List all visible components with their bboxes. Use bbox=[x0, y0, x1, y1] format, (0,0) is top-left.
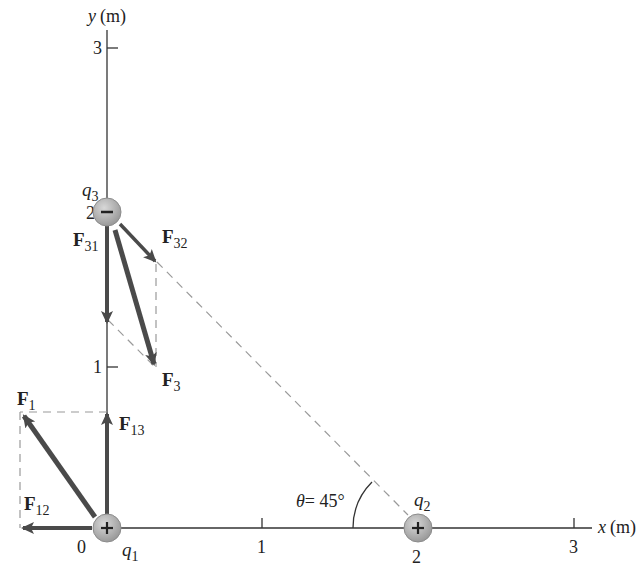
x-tick-label-3: 3 bbox=[569, 537, 578, 557]
y-tick-label-3: 3 bbox=[93, 38, 102, 58]
label-q1: q1 bbox=[122, 539, 139, 564]
x-tick-label-0: 0 bbox=[77, 537, 86, 557]
x-axis-label: x(m) bbox=[597, 517, 636, 538]
label-q3: q3 bbox=[82, 179, 99, 204]
force-vector-diagram: y(m) x(m) 0 1 2 3 1 2 3 θ= 45° bbox=[0, 0, 641, 571]
arrow-f32 bbox=[120, 224, 155, 261]
force-arrows bbox=[23, 224, 155, 528]
label-f31: F31 bbox=[73, 229, 99, 254]
charge-q1 bbox=[93, 514, 121, 542]
x-tick-label-1: 1 bbox=[257, 537, 266, 557]
angle-arc bbox=[353, 482, 372, 528]
y-tick-label-1: 1 bbox=[93, 357, 102, 377]
label-f13: F13 bbox=[119, 413, 145, 438]
charge-q2 bbox=[404, 514, 432, 542]
construction-lines bbox=[20, 262, 408, 528]
axes bbox=[107, 30, 592, 528]
arrow-f3 bbox=[115, 230, 154, 364]
dashed-line-q3-q2 bbox=[157, 262, 408, 515]
label-q2: q2 bbox=[414, 489, 431, 514]
angle-label: θ= 45° bbox=[296, 491, 345, 511]
y-axis-label: y(m) bbox=[86, 6, 126, 27]
label-f3: F3 bbox=[162, 369, 181, 394]
label-f1: F1 bbox=[17, 388, 36, 413]
label-f32: F32 bbox=[162, 226, 188, 251]
label-f12: F12 bbox=[24, 493, 50, 518]
x-tick-label-2: 2 bbox=[412, 547, 421, 567]
